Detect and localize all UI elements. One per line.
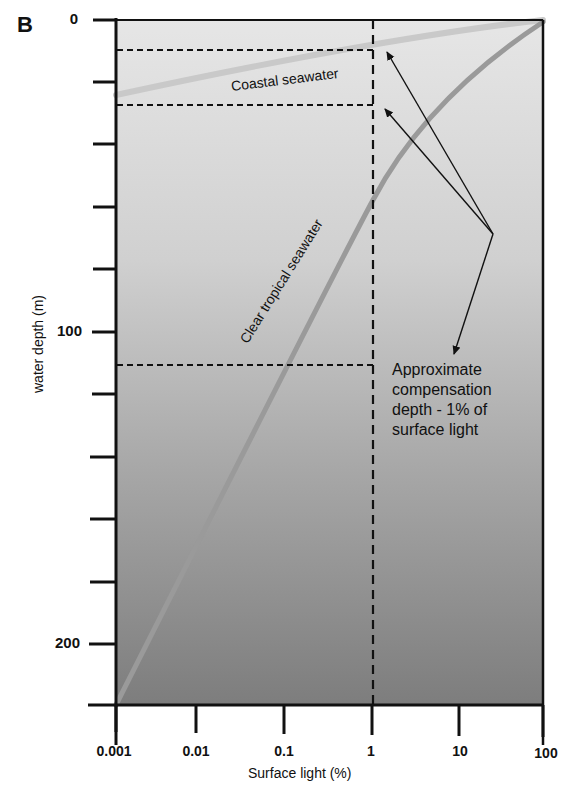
y-axis-ticks	[89, 20, 116, 644]
x-tick-label-0.01: 0.01	[166, 743, 226, 759]
light-depth-chart: B 0 100 200 0.001 0.01 0.1 1 10 100 wate…	[0, 0, 576, 801]
x-tick-label-0.001: 0.001	[84, 743, 144, 759]
x-axis-ticks	[116, 705, 543, 737]
x-axis-label: Surface light (%)	[248, 765, 351, 781]
x-tick-label-0.1: 0.1	[254, 743, 314, 759]
y-axis-label: water depth (m)	[30, 295, 46, 393]
x-tick-label-10: 10	[430, 743, 490, 759]
compensation-depth-annotation: Approximate compensation depth - 1% of s…	[392, 360, 492, 440]
x-tick-label-100: 100	[516, 745, 576, 761]
y-tick-label-0: 0	[28, 10, 78, 27]
x-tick-label-1: 1	[341, 743, 401, 759]
y-tick-label-200: 200	[30, 634, 80, 651]
